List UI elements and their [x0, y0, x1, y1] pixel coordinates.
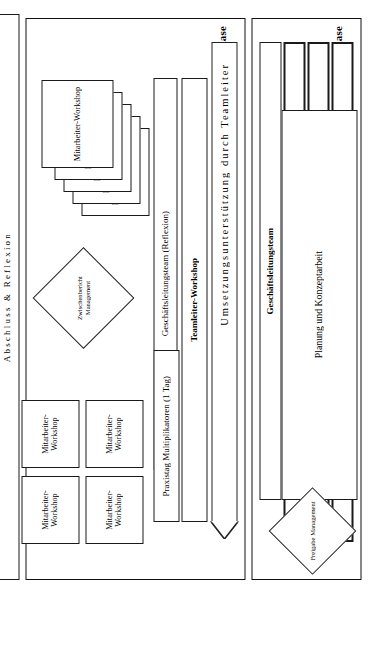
box-mitarbeiter-workshop-4: Mitarbeiter-Workshop	[21, 476, 79, 544]
bar-teamleiter-workshop-phase2: Teamleiter-Workshop	[181, 78, 207, 522]
bar-teamleiter-workshop-phase2-label: Teamleiter-Workshop	[189, 258, 199, 342]
bar-geschaeftsleitungsteam-reflexion-label: Geschäftsleitungsteam (Reflexion)	[160, 211, 170, 336]
diamond-freigabe-management-text: Freigabe Management	[308, 501, 316, 560]
box-planung-und-konzeptarbeit-label: Planung und Konzeptarbeit	[314, 251, 325, 358]
box-mitarbeiter-workshop-2-label: Mitarbeiter-Workshop	[41, 401, 59, 467]
arrow-umsetzungsunterstuetzung: Umsetzungsunterstützung durch Teamleiter	[211, 42, 237, 522]
box-mitarbeiter-workshop-2: Mitarbeiter-Workshop	[21, 400, 79, 468]
stack-mitarbeiter-workshop: Mitarbeiter-Workshop Mitarbeiter-Worksho…	[37, 80, 149, 270]
arrow-umsetzungsunterstuetzung-arrowhead	[210, 521, 238, 539]
bar-geschaeftsleitungsteam: Geschäftsleitungsteam	[259, 42, 281, 500]
box-mitarbeiter-workshop-1: Mitarbeiter-Workshop	[85, 400, 143, 468]
diamond-zwischenbericht-management-label: Zwischenbericht Management	[47, 262, 119, 334]
diamond-freigabe-management-label: Freigabe Management	[281, 500, 343, 562]
box-mitarbeiter-workshop-1-label: Mitarbeiter-Workshop	[105, 401, 123, 467]
bar-abschluss-reflexion-label: Abschluss & Reflexion	[2, 232, 12, 362]
bar-geschaeftsleitungsteam-label: Geschäftsleitungsteam	[265, 228, 275, 315]
process-timeline-diagram: Oktober Februar März Juni September Info…	[0, 0, 375, 650]
stacked-card-front: Mitarbeiter-Workshop	[41, 80, 113, 168]
bar-abschluss-reflexion: Abschluss & Reflexion	[0, 14, 19, 580]
bar-praxistag-multiplikatoren-phase2: Praxistag Multiplikatoren (1 Tag)	[153, 350, 179, 522]
diamond-zwischenbericht-management: Zwischenbericht Management	[47, 262, 119, 334]
bar-praxistag-multiplikatoren-phase2-label: Praxistag Multiplikatoren (1 Tag)	[161, 376, 171, 496]
arrow-umsetzungsunterstuetzung-label: Umsetzungsunterstützung durch Teamleiter	[219, 63, 230, 326]
box-mitarbeiter-workshop-3: Mitarbeiter-Workshop	[85, 476, 143, 544]
stacked-card-front-label: Mitarbeiter-Workshop	[42, 81, 112, 167]
diamond-zwischenbericht-management-text: Zwischenbericht Management	[75, 262, 91, 334]
diamond-freigabe-management: Freigabe Management	[281, 500, 343, 562]
box-mitarbeiter-workshop-4-label: Mitarbeiter-Workshop	[41, 477, 59, 543]
box-planung-und-konzeptarbeit: Planung und Konzeptarbeit	[281, 110, 357, 500]
box-mitarbeiter-workshop-3-label: Mitarbeiter-Workshop	[105, 477, 123, 543]
